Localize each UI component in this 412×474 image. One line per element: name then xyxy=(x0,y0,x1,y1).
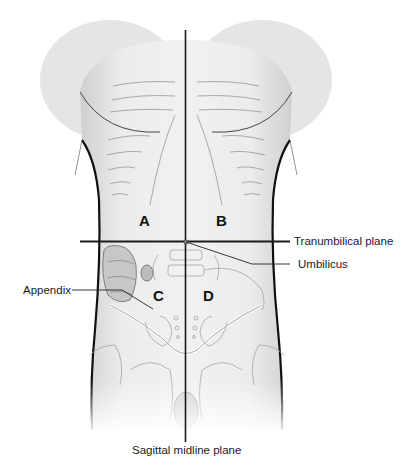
transumbilical-plane-label: Tranumbilical plane xyxy=(294,236,393,248)
sagittal-midline-plane-label: Sagittal midline plane xyxy=(132,445,241,457)
quadrant-a-label: A xyxy=(139,213,150,228)
umbilicus-label: Umbilicus xyxy=(298,259,348,271)
abdominal-quadrants-diagram: A B C D Tranumbilical plane Umbilicus Ap… xyxy=(0,0,412,474)
quadrant-b-label: B xyxy=(216,213,227,228)
appendix-shape xyxy=(141,265,153,281)
quadrant-c-label: C xyxy=(153,288,164,303)
quadrant-d-label: D xyxy=(203,288,214,303)
appendix-label: Appendix xyxy=(23,285,71,297)
